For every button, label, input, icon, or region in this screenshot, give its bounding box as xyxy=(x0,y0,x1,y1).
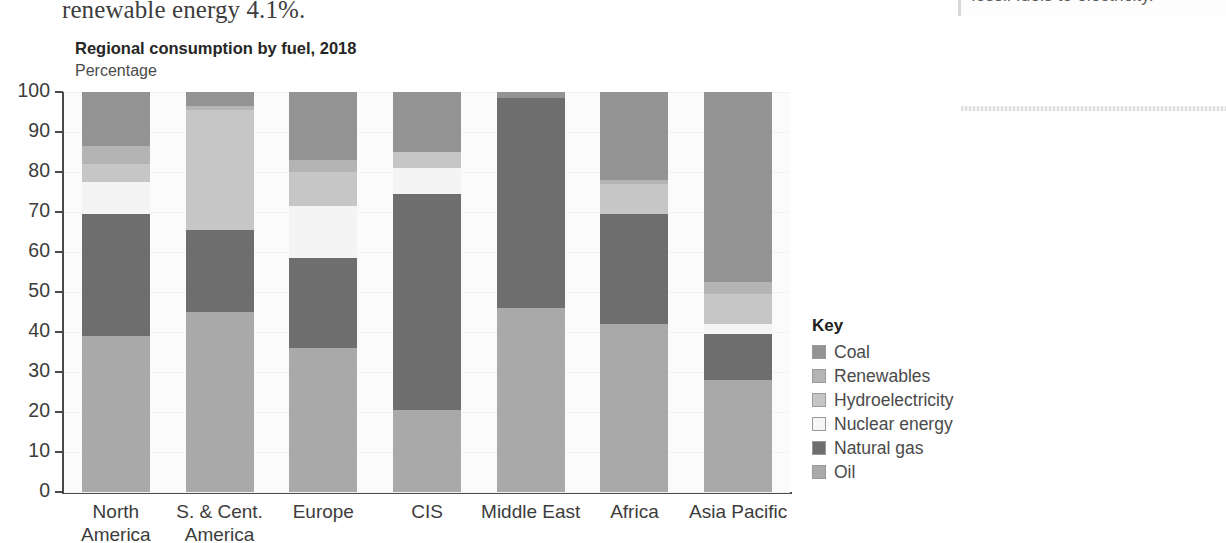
y-axis-tick xyxy=(55,331,63,333)
bar-segment-natural-gas[interactable] xyxy=(82,214,150,336)
legend-label: Nuclear energy xyxy=(834,414,953,435)
bar-segment-coal[interactable] xyxy=(186,92,254,106)
y-axis-tick-label: 50 xyxy=(2,279,50,302)
legend-label: Oil xyxy=(834,462,855,483)
y-axis-tick xyxy=(55,91,63,93)
chart-plot-area: 0102030405060708090100 NorthAmericaS. & … xyxy=(0,0,860,543)
legend-swatch-icon xyxy=(812,369,826,383)
y-axis-line xyxy=(62,92,64,494)
bar-segment-coal[interactable] xyxy=(393,92,461,152)
legend-swatch-icon xyxy=(812,465,826,479)
y-axis-tick-label: 10 xyxy=(2,439,50,462)
bar-cis[interactable] xyxy=(393,92,461,492)
y-axis-tick-label: 80 xyxy=(2,159,50,182)
bar-segment-oil[interactable] xyxy=(289,348,357,492)
bar-segment-oil[interactable] xyxy=(497,308,565,492)
y-axis-tick-label: 100 xyxy=(2,79,50,102)
bar-segment-nuclear-energy[interactable] xyxy=(82,182,150,214)
legend-swatch-icon xyxy=(812,345,826,359)
bar-segment-hydroelectricity[interactable] xyxy=(186,110,254,230)
bar-north-america[interactable] xyxy=(82,92,150,492)
bar-segment-hydroelectricity[interactable] xyxy=(289,172,357,206)
chart-legend: Key CoalRenewablesHydroelectricityNuclea… xyxy=(812,316,992,484)
legend-item-renewables[interactable]: Renewables xyxy=(812,364,992,388)
bar-segment-oil[interactable] xyxy=(186,312,254,492)
y-axis-tick-label: 40 xyxy=(2,319,50,342)
y-axis-tick-label: 70 xyxy=(2,199,50,222)
legend-label: Coal xyxy=(834,342,870,363)
side-note-bottom-rule xyxy=(961,106,1226,111)
bar-segment-oil[interactable] xyxy=(82,336,150,492)
legend-item-nuclear-energy[interactable]: Nuclear energy xyxy=(812,412,992,436)
bar-segment-renewables[interactable] xyxy=(186,106,254,110)
bar-segment-natural-gas[interactable] xyxy=(600,214,668,324)
y-axis-tick xyxy=(55,491,63,493)
y-axis-tick-label: 30 xyxy=(2,359,50,382)
x-axis-label-line: America xyxy=(130,523,310,543)
bar-segment-natural-gas[interactable] xyxy=(289,258,357,348)
legend-label: Hydroelectricity xyxy=(834,390,954,411)
y-axis-tick xyxy=(55,211,63,213)
bar-segment-natural-gas[interactable] xyxy=(186,230,254,312)
y-axis-tick xyxy=(55,251,63,253)
bar-segment-coal[interactable] xyxy=(704,92,772,282)
bar-segment-renewables[interactable] xyxy=(289,160,357,172)
bar-segment-renewables[interactable] xyxy=(600,180,668,184)
x-axis-label-line: Asia Pacific xyxy=(648,500,828,523)
side-note-line: fossil fuels to electricity. xyxy=(971,0,1220,8)
bar-segment-coal[interactable] xyxy=(600,92,668,180)
bar-segment-oil[interactable] xyxy=(704,380,772,492)
bar-segment-renewables[interactable] xyxy=(82,146,150,164)
bar-segment-hydroelectricity[interactable] xyxy=(393,152,461,168)
y-axis-tick-label: 90 xyxy=(2,119,50,142)
y-axis-tick-label: 20 xyxy=(2,399,50,422)
y-axis-tick-label: 60 xyxy=(2,239,50,262)
bar-segment-hydroelectricity[interactable] xyxy=(704,294,772,324)
bar-asia-pacific[interactable] xyxy=(704,92,772,492)
y-axis-tick xyxy=(55,171,63,173)
bar-s-cent-america[interactable] xyxy=(186,92,254,492)
bar-segment-nuclear-energy[interactable] xyxy=(704,324,772,334)
legend-item-hydroelectricity[interactable]: Hydroelectricity xyxy=(812,388,992,412)
legend-swatch-icon xyxy=(812,441,826,455)
bar-segment-hydroelectricity[interactable] xyxy=(82,164,150,182)
bar-segment-coal[interactable] xyxy=(497,92,565,98)
legend-swatch-icon xyxy=(812,417,826,431)
bar-middle-east[interactable] xyxy=(497,92,565,492)
bar-segment-nuclear-energy[interactable] xyxy=(393,168,461,194)
bar-segment-coal[interactable] xyxy=(82,92,150,146)
bar-segment-natural-gas[interactable] xyxy=(704,334,772,380)
x-axis-label: Asia Pacific xyxy=(648,500,828,523)
bar-segment-coal[interactable] xyxy=(289,92,357,160)
y-axis-tick xyxy=(55,291,63,293)
legend-label: Natural gas xyxy=(834,438,924,459)
bar-africa[interactable] xyxy=(600,92,668,492)
bar-segment-natural-gas[interactable] xyxy=(393,194,461,410)
y-axis-tick xyxy=(55,371,63,373)
y-axis-tick xyxy=(55,451,63,453)
legend-title: Key xyxy=(812,316,992,336)
legend-item-oil[interactable]: Oil xyxy=(812,460,992,484)
bar-segment-hydroelectricity[interactable] xyxy=(600,184,668,214)
bar-segment-oil[interactable] xyxy=(393,410,461,492)
bar-segment-renewables[interactable] xyxy=(704,282,772,294)
bar-segment-nuclear-energy[interactable] xyxy=(289,206,357,258)
bar-segment-natural-gas[interactable] xyxy=(497,98,565,308)
bar-europe[interactable] xyxy=(289,92,357,492)
side-note-box: form found in nature that has not been c… xyxy=(958,0,1226,16)
y-axis-tick xyxy=(55,411,63,413)
bar-segment-oil[interactable] xyxy=(600,324,668,492)
legend-swatch-icon xyxy=(812,393,826,407)
legend-label: Renewables xyxy=(834,366,930,387)
y-axis-tick xyxy=(55,131,63,133)
legend-item-coal[interactable]: Coal xyxy=(812,340,992,364)
y-axis-tick-label: 0 xyxy=(2,479,50,502)
legend-rows: CoalRenewablesHydroelectricityNuclear en… xyxy=(812,340,992,484)
legend-item-natural-gas[interactable]: Natural gas xyxy=(812,436,992,460)
